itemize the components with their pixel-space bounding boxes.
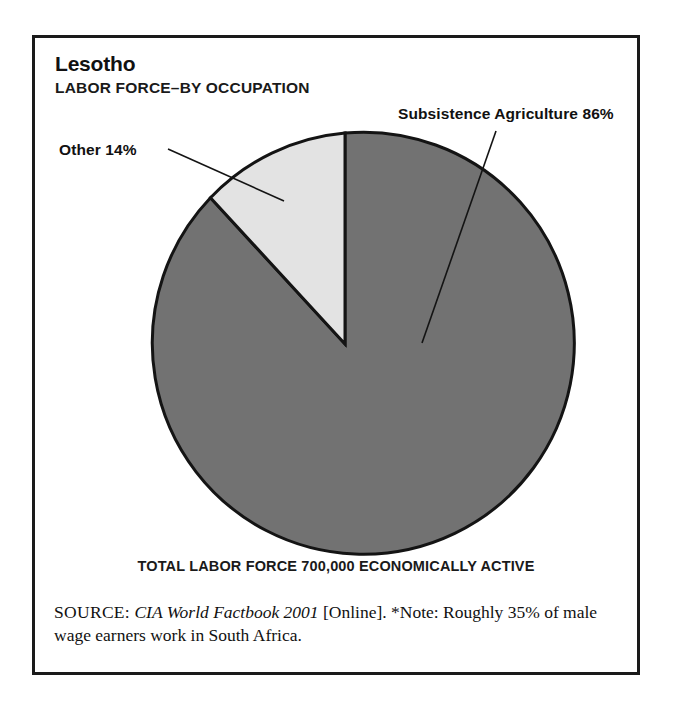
source-label: SOURCE: [54, 602, 130, 622]
pie-label-subsistence-agriculture: Subsistence Agriculture 86% [398, 106, 614, 122]
total-labor-force-caption: TOTAL LABOR FORCE 700,000 ECONOMICALLY A… [35, 559, 637, 574]
figure-root: Lesotho LABOR FORCE–BY OCCUPATION Subsis… [0, 0, 673, 706]
source-note: SOURCE: CIA World Factbook 2001 [Online]… [54, 601, 621, 648]
pie-chart [35, 38, 637, 672]
pie-label-other: Other 14% [59, 142, 137, 158]
source-work-title: CIA World Factbook 2001 [134, 602, 318, 622]
figure-frame: Lesotho LABOR FORCE–BY OCCUPATION Subsis… [32, 35, 640, 675]
